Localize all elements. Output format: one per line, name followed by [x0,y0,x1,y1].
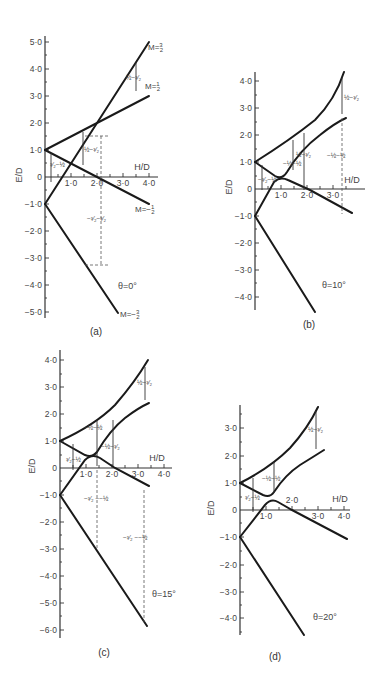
svg-text:−2·0: −2·0 [235,238,253,248]
svg-text:1·0: 1·0 [30,145,43,155]
svg-text:½−³⁄₂: ½−³⁄₂ [296,151,311,158]
svg-text:−½−³⁄₂: −½−³⁄₂ [101,443,120,450]
svg-text:−2·0: −2·0 [25,226,43,236]
curve-upper [240,407,318,483]
caption-b: (b) [303,319,315,330]
svg-text:2·0: 2·0 [30,118,43,128]
svg-text:−1·0: −1·0 [25,199,43,209]
svg-text:³⁄₂−½: ³⁄₂−½ [50,161,66,168]
svg-text:2·0: 2·0 [45,409,58,419]
svg-text:2·0: 2·0 [225,451,238,461]
svg-text:1·0: 1·0 [65,178,78,188]
svg-text:1·0: 1·0 [45,436,58,446]
svg-text:½−³⁄₂: ½−³⁄₂ [84,146,99,153]
svg-text:³⁄₂−½: ³⁄₂−½ [66,456,82,463]
svg-text:−2·0: −2·0 [40,517,58,527]
curve-lowest [60,495,147,626]
caption-c: (c) [98,647,110,658]
svg-text:½−³⁄₂: ½−³⁄₂ [137,379,152,386]
y-axis-label: E/D [14,167,24,183]
svg-text:−3·0: −3·0 [40,544,58,554]
x-axis-label: H/D [149,453,165,463]
svg-text:−4·0: −4·0 [25,280,43,290]
svg-text:1·0: 1·0 [260,511,273,521]
x-tick-labels: 1·0 2·0 3·0 [275,190,340,200]
svg-text:−1·0: −1·0 [40,490,58,500]
line-m-neg-3-2 [45,204,118,313]
theta-label: θ=15° [152,589,176,599]
panel-a: 5·0 4·0 3·0 2·0 1·0 0 −1·0 −2·0 −3·0 −4·… [14,36,164,337]
svg-text:−³⁄₂−½: −³⁄₂−½ [258,176,277,183]
x-axis-label: H/D [134,162,150,172]
svg-text:1·0: 1·0 [80,469,93,479]
svg-text:M=12: M=12 [145,81,161,92]
y-axis-label: E/D [27,458,37,474]
y-tick-labels: 4·0 3·0 2·0 1·0 0 −1·0 −2·0 −3·0 −4·0 −5… [40,355,58,635]
panel-d: 3·0 2·0 1·0 0 −1·0 −2·0 −3·0 −4·0 1·0 2·… [206,405,350,662]
svg-text:4·0: 4·0 [240,76,253,86]
y-axis-label: E/D [206,500,216,516]
curve-lowest [240,537,304,635]
svg-text:2·0: 2·0 [240,130,253,140]
svg-text:1·0: 1·0 [225,478,238,488]
svg-text:−5·0: −5·0 [40,598,58,608]
panel-c: 4·0 3·0 2·0 1·0 0 −1·0 −2·0 −3·0 −4·0 −5… [27,350,176,658]
svg-text:3·0: 3·0 [240,103,253,113]
svg-text:M=32: M=32 [148,42,164,53]
transition-labels: ½−³⁄₂ −½−½ ³⁄₂−½ [245,426,323,501]
svg-text:−1·0: −1·0 [235,211,253,221]
y-ticks [240,414,244,632]
svg-text:3·0: 3·0 [30,91,43,101]
svg-text:−4·0: −4·0 [220,613,238,623]
svg-text:−1·0: −1·0 [220,532,238,542]
svg-text:−½−½: −½−½ [283,160,302,167]
svg-text:2·0: 2·0 [286,495,299,505]
curve-lowest [255,216,315,312]
svg-text:³⁄₂−½: ³⁄₂−½ [245,494,261,501]
curve-upper [60,360,148,441]
energy-level-figure: 5·0 4·0 3·0 2·0 1·0 0 −1·0 −2·0 −3·0 −4·… [0,0,378,696]
svg-text:−³⁄₂ −−½: −³⁄₂ −−½ [84,495,109,502]
transition-labels: ½−³⁄₂ −½−½ −½−½ ½−³⁄₂ −³⁄₂−½ [258,94,359,183]
curve-upper [255,72,344,162]
curve-third [240,501,347,539]
x-axis-label: H/D [332,494,348,504]
svg-text:−½−½: −½−½ [327,152,346,159]
y-tick-labels: 4·0 3·0 2·0 1·0 0 −1·0 −2·0 −3·0 −4·0 [235,76,253,302]
svg-text:½−³⁄₂: ½−³⁄₂ [126,74,141,81]
svg-text:−³⁄₂−³⁄₂: −³⁄₂−³⁄₂ [87,215,107,222]
svg-text:4·0: 4·0 [45,355,58,365]
y-tick-labels: 5·0 4·0 3·0 2·0 1·0 0 −1·0 −2·0 −3·0 −4·… [25,37,43,317]
x-axis-label: H/D [344,175,360,185]
transition-labels: ½−³⁄₂ −½−½ ³⁄₂−½ −½−³⁄₂ −³⁄₂ −−½ −³⁄₂ −−… [66,379,152,541]
svg-text:3·0: 3·0 [225,423,238,433]
theta-label: θ=10° [322,280,346,290]
svg-text:1·0: 1·0 [275,190,288,200]
svg-text:½−³⁄₂: ½−³⁄₂ [308,426,323,433]
panel-b: 4·0 3·0 2·0 1·0 0 −1·0 −2·0 −3·0 −4·0 1·… [224,72,365,330]
svg-text:4·0: 4·0 [338,511,351,521]
svg-text:−3·0: −3·0 [25,253,43,263]
svg-text:2·0: 2·0 [106,469,119,479]
svg-text:−½−½: −½−½ [84,424,103,431]
svg-text:−³⁄₂ −−½: −³⁄₂ −−½ [123,534,148,541]
svg-text:5·0: 5·0 [30,37,43,47]
svg-text:3·0: 3·0 [117,178,130,188]
curve-second [255,118,346,177]
svg-text:−2·0: −2·0 [220,560,238,570]
theta-label: θ=20° [313,612,337,622]
svg-text:−4·0: −4·0 [40,571,58,581]
y-tick-labels: 3·0 2·0 1·0 0 −1·0 −2·0 −3·0 −4·0 [220,423,238,623]
caption-a: (a) [90,326,102,337]
svg-text:3·0: 3·0 [312,511,325,521]
svg-text:4·0: 4·0 [30,64,43,74]
svg-text:M=−12: M=−12 [135,204,155,215]
svg-text:0: 0 [52,463,57,473]
svg-text:−3·0: −3·0 [220,587,238,597]
svg-text:0: 0 [37,172,42,182]
theta-label: θ=0° [118,281,137,291]
y-axis-label: E/D [224,179,234,195]
svg-text:M=−32: M=−32 [120,309,140,320]
svg-text:3·0: 3·0 [327,190,340,200]
svg-text:−6·0: −6·0 [40,625,58,635]
